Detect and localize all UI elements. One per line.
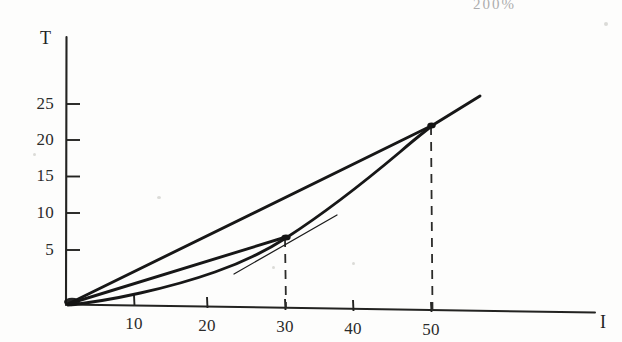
tangent-line-at-30 — [234, 215, 337, 274]
chart-figure: 200% T I 25 20 15 10 5 10 20 30 40 50 — [0, 0, 622, 342]
y-axis-line — [66, 37, 67, 305]
x-axis-line — [66, 305, 595, 313]
secant-line-to-50 — [68, 126, 431, 304]
y-tick-marks — [66, 104, 80, 250]
dashed-drop-line-30 — [285, 238, 286, 308]
plot-area — [0, 0, 622, 342]
point-marker-50 — [427, 123, 435, 129]
dashed-drop-line-50 — [431, 126, 433, 311]
origin-ink-blob — [64, 298, 80, 306]
point-marker-30 — [281, 235, 290, 241]
secant-line-to-30 — [68, 237, 286, 304]
